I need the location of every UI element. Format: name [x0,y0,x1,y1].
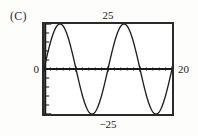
plot-frame [42,22,174,116]
x-max-label: 20 [178,63,189,75]
plot-canvas [44,24,172,114]
y-min-label: −25 [42,118,174,130]
y-origin-label: 0 [24,63,39,75]
figure-container: (C) 25 −25 0 20 [0,0,198,136]
y-max-label: 25 [42,9,174,21]
part-label: (C) [10,9,27,23]
